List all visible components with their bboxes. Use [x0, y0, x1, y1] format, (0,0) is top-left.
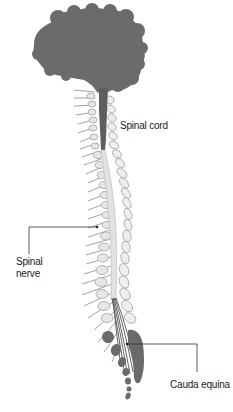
spinal-nerve-pointer-dot: [96, 226, 99, 229]
sacrum: [100, 329, 144, 400]
label-spinal-nerve-line2: nerve: [16, 268, 40, 280]
spinal-anatomy-illustration: [0, 0, 233, 412]
cauda-equina-pointer-dot: [126, 343, 129, 346]
spinal-nerve-leader: [29, 227, 97, 254]
brain: [32, 3, 148, 94]
label-spinal-nerve-line1: Spinal: [16, 256, 43, 268]
label-spinal-cord: Spinal cord: [120, 120, 168, 132]
label-cauda-equina: Cauda equina: [170, 379, 230, 391]
